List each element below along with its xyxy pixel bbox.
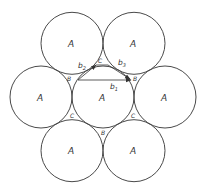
circle-top-left: A — [41, 12, 103, 74]
circle-label: A — [67, 146, 74, 156]
circle-left: A — [10, 66, 72, 128]
circle-label: A — [98, 93, 105, 103]
circle-label: A — [36, 93, 43, 103]
interstice-label-upper-left: B — [67, 75, 71, 82]
circle-label: A — [160, 93, 167, 103]
interstice-label-top: C — [98, 57, 103, 64]
circle-top-right: A — [103, 12, 165, 74]
circle-label: A — [67, 39, 74, 49]
vector-label: b3 — [118, 58, 126, 68]
interstice-label-lower-right: C — [131, 112, 136, 119]
vector-label: b1 — [110, 82, 118, 92]
interstice-label-upper-right: B — [133, 75, 137, 82]
close-packing-diagram: A A A A A A A C B B C C B b1 b2 b3 — [0, 0, 207, 195]
interstice-label-bottom: B — [101, 129, 105, 136]
vector-label: b2 — [78, 61, 86, 71]
circle-label: A — [129, 146, 136, 156]
circle-label: A — [129, 39, 136, 49]
circle-bottom-right: A — [103, 120, 165, 182]
circle-right: A — [134, 66, 196, 128]
interstice-label-lower-left: C — [70, 112, 75, 119]
vector-b1: b1 — [78, 80, 131, 92]
circle-bottom-left: A — [41, 120, 103, 182]
